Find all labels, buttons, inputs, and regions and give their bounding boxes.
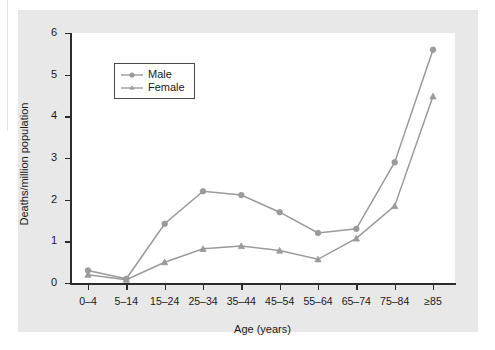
x-tick [88,284,89,290]
x-tick-label: 35–44 [227,295,256,308]
x-tick-label: 55–64 [303,295,332,308]
x-tick [433,284,434,290]
data-point-circle [277,209,283,215]
chart-figure-panel: 0123456 0–45–1415–2425–3435–4445–5455–64… [18,10,478,332]
x-tick-label: 25–34 [188,295,217,308]
data-point-triangle [392,203,398,209]
y-tick-label: 4 [51,109,57,122]
x-tick [356,284,357,290]
x-tick-label: 75–84 [380,295,409,308]
y-tick-label: 3 [51,151,57,164]
y-tick-label: 2 [51,193,57,206]
legend-entry-male: Male [121,68,185,81]
x-axis-title: Age (years) [70,323,455,335]
data-point-circle [392,159,398,165]
y-tick-label: 5 [51,68,57,81]
x-tick [126,284,127,290]
legend-marker-triangle-icon [121,82,143,94]
y-tick-label: 0 [51,276,57,289]
y-tick-label: 1 [51,234,57,247]
data-point-circle [354,226,360,232]
series-female [85,93,436,282]
x-tick [395,284,396,290]
data-point-circle [315,230,321,236]
x-tick [165,284,166,290]
figure-screenshot: 0123456 0–45–1415–2425–3435–4445–5455–64… [0,0,495,350]
y-tick-label: 6 [51,26,57,39]
legend-label-male: Male [148,68,172,81]
x-tick [241,284,242,290]
legend-marker-circle-icon [121,69,143,81]
page-edge-sliver [0,0,8,131]
x-tick-label: 0–4 [79,295,97,308]
x-tick [280,284,281,290]
x-tick-label: 65–74 [342,295,371,308]
chart-legend: Male Female [114,63,195,99]
x-tick [318,284,319,290]
data-point-circle [200,189,206,195]
y-axis-title: Deaths/million population [18,79,30,249]
series-line [88,96,433,279]
data-point-circle [430,47,436,53]
x-tick-label: 45–54 [265,295,294,308]
x-tick [203,284,204,290]
legend-label-female: Female [148,81,185,94]
legend-entry-female: Female [121,81,185,94]
x-tick-label: 15–24 [150,295,179,308]
x-tick-label: 5–14 [115,295,138,308]
data-point-triangle [430,93,436,99]
data-point-circle [162,221,168,227]
plot-area: 0123456 0–45–1415–2425–3435–4445–5455–64… [70,33,455,283]
data-point-circle [239,192,245,198]
x-tick-label: ≥85 [424,295,441,308]
